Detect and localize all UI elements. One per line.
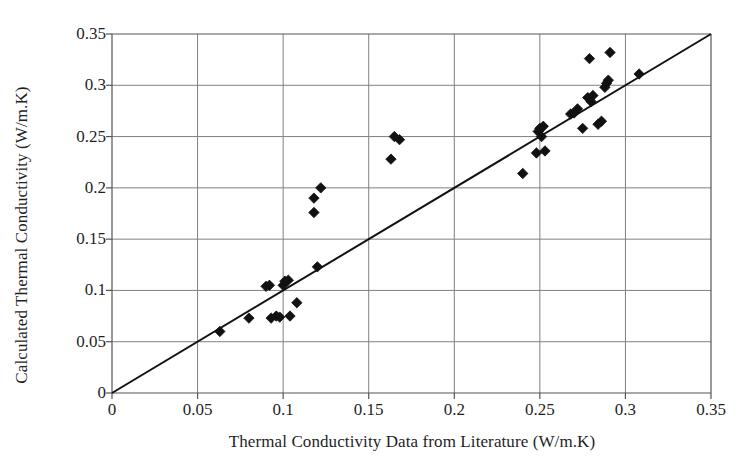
x-axis-title: Thermal Conductivity Data from Literatur… [112,432,712,452]
data-point-marker [285,311,295,321]
parity-line [112,34,711,393]
data-point-marker [518,168,528,178]
data-point-marker [309,193,319,203]
data-point-marker [309,207,319,217]
x-tick-label: 0 [77,400,147,420]
x-tick-label: 0.2 [419,400,489,420]
data-point-marker [634,69,644,79]
x-tick-label: 0.3 [590,400,660,420]
x-tick-label: 0.15 [334,400,404,420]
data-point-marker [386,154,396,164]
data-point-marker [292,298,302,308]
data-point-marker [540,146,550,156]
data-point-marker [312,262,322,272]
scatter-chart-figure: Calculated Thermal Conductivity (W/m.K) … [0,0,756,470]
x-tick-label: 0.05 [163,400,233,420]
data-point-marker [577,123,587,133]
data-point-marker [244,313,254,323]
data-point-marker [584,53,594,63]
parity-line-stroke [112,34,711,393]
data-point-marker [316,183,326,193]
x-tick-label: 0.1 [248,400,318,420]
x-tick-label: 0.25 [505,400,575,420]
data-point-marker [215,326,225,336]
x-tick-label: 0.35 [676,400,746,420]
data-point-marker [605,47,615,57]
